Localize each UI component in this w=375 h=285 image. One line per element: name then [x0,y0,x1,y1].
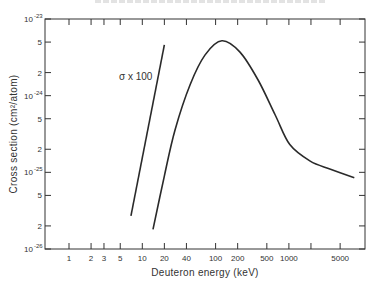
x-tick-label: 20 [160,254,169,263]
y-tick-label: 10 [24,92,33,101]
y-tick-exponent: -25 [34,166,43,172]
y-tick-exponent: -24 [34,90,43,96]
series-sigma [153,41,354,230]
x-tick-label: 5 [118,254,123,263]
x-tick-label: 500 [260,254,274,263]
y-tick-exponent: -23 [34,13,43,19]
x-tick-label: 2 [89,254,94,263]
y-tick-label: 5 [38,38,43,47]
x-tick-label: 1 [67,254,72,263]
y-axis-title: Cross section (cm²/atom) [8,75,19,194]
y-tick-label: 5 [38,115,43,124]
y-tick-label: 10 [24,245,33,254]
y-tick-label: 5 [38,191,43,200]
y-axis-ticks: 10-235210-245210-255210-26 [24,13,365,254]
y-tick-label: 2 [38,69,43,78]
x-tick-label: 200 [231,254,245,263]
y-tick-exponent: -26 [34,243,43,249]
x-tick-label: 40 [182,254,191,263]
cross-section-chart: 123510204010020050010005000 10-235210-24… [0,0,375,285]
x-tick-label: 10 [138,254,147,263]
x-tick-label: 1000 [280,254,298,263]
y-tick-label: 2 [38,222,43,231]
x-tick-label: 3 [102,254,107,263]
plot-frame [45,19,365,249]
x-tick-label: 5000 [331,254,349,263]
x-axis-title: Deuteron energy (keV) [151,267,258,278]
sigma-x100-annotation: σ x 100 [119,71,153,82]
y-tick-label: 10 [24,15,33,24]
x-tick-label: 100 [209,254,223,263]
x-axis-ticks: 123510204010020050010005000 [67,19,350,263]
y-tick-label: 2 [38,145,43,154]
data-series [131,41,354,230]
y-tick-label: 10 [24,168,33,177]
